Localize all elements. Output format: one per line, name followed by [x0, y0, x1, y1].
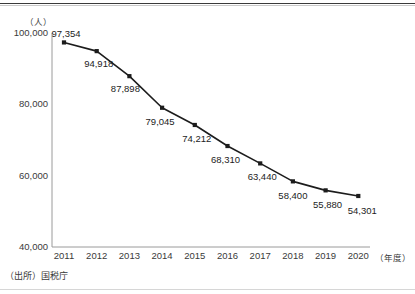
data-point-marker-2017	[258, 161, 262, 165]
data-point-marker-2011	[62, 40, 66, 44]
chart-plot-area: （人） 100,000 80,000 60,000 40,000 97,354 …	[0, 6, 415, 262]
data-label-2011: 97,354	[51, 28, 80, 39]
data-point-marker-2019	[324, 188, 328, 192]
x-tick-label-2019: 2019	[315, 250, 336, 261]
x-tick-label-2014: 2014	[152, 250, 173, 261]
x-tick-label-2013: 2013	[119, 250, 140, 261]
x-tick-label-2017: 2017	[250, 250, 271, 261]
x-tick-label-2018: 2018	[282, 250, 303, 261]
clipped-header-text: ．．． ．． ．．． ．．．	[0, 0, 415, 2]
figure-container: ．．． ．． ．．． ．．． （人） 100,000 80,000 60,000…	[0, 0, 415, 294]
data-point-marker-2013	[127, 74, 131, 78]
x-tick-label-2015: 2015	[184, 250, 205, 261]
data-label-2017: 63,440	[248, 171, 277, 182]
data-point-marker-2020	[356, 194, 360, 198]
data-label-2019: 55,880	[313, 199, 342, 210]
data-label-2014: 79,045	[146, 116, 175, 127]
data-point-marker-2018	[291, 179, 295, 183]
data-label-2020: 54,301	[348, 205, 377, 216]
data-label-2018: 58,400	[278, 190, 307, 201]
top-divider-rule	[0, 3, 415, 4]
x-axis-unit-label: （年度）	[375, 251, 411, 263]
data-point-marker-2012	[95, 49, 99, 53]
x-tick-label-2011: 2011	[54, 250, 74, 261]
data-point-marker-2014	[160, 106, 164, 110]
x-tick-label-2020: 2020	[348, 250, 369, 261]
source-note: （出所）国税庁	[5, 269, 68, 282]
data-point-marker-2016	[225, 144, 229, 148]
data-point-marker-2015	[193, 123, 197, 127]
data-label-2016: 68,310	[211, 154, 240, 165]
x-tick-label-2016: 2016	[217, 250, 238, 261]
data-label-2015: 74,212	[182, 133, 211, 144]
x-tick-label-2012: 2012	[86, 250, 107, 261]
bottom-divider-rule	[0, 289, 415, 290]
data-label-2013: 87,898	[111, 83, 140, 94]
data-label-2012: 94,918	[84, 58, 113, 69]
